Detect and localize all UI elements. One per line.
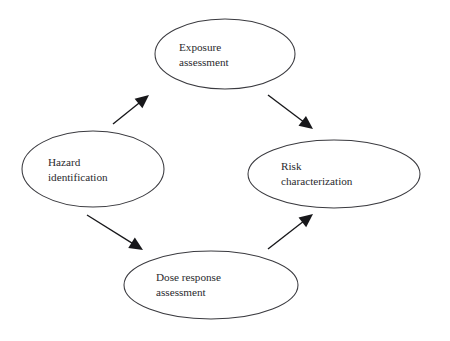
arrow-hazard-to-exposure: [113, 95, 149, 124]
arrow-exposure-to-risk-shaft: [268, 95, 304, 122]
arrow-hazard-to-exposure-shaft: [113, 102, 140, 124]
risk-characterization-node-label-line-1: Risk: [281, 159, 352, 174]
risk-assessment-diagram: ExposureassessmentHazardidentificationRi…: [0, 0, 450, 341]
arrow-dose-response-to-risk: [268, 214, 313, 249]
exposure-assessment-node-label-line-2: assessment: [179, 55, 229, 70]
arrow-dose-response-to-risk-shaft: [268, 221, 304, 249]
hazard-identification-node-label-line-1: Hazard: [48, 155, 108, 170]
arrow-exposure-to-risk: [268, 95, 313, 129]
arrow-hazard-to-dose-response-arrowhead-icon: [128, 238, 143, 250]
arrow-hazard-to-exposure-arrowhead-icon: [135, 95, 149, 108]
dose-response-assessment-node-label-line-2: assessment: [156, 285, 221, 300]
risk-characterization-node-label: Riskcharacterization: [281, 159, 352, 188]
dose-response-assessment-node-label: Dose responseassessment: [156, 270, 221, 299]
hazard-identification-node-label-line-2: identification: [48, 170, 108, 185]
risk-characterization-node-label-line-2: characterization: [281, 174, 352, 189]
exposure-assessment-node-label: Exposureassessment: [179, 40, 229, 69]
arrow-hazard-to-dose-response: [87, 215, 143, 250]
hazard-identification-node-label: Hazardidentification: [48, 155, 108, 184]
dose-response-assessment-node-label-line-1: Dose response: [156, 270, 221, 285]
exposure-assessment-node-label-line-1: Exposure: [179, 40, 229, 55]
arrow-exposure-to-risk-arrowhead-icon: [298, 116, 313, 129]
arrow-hazard-to-dose-response-shaft: [87, 215, 133, 244]
arrow-dose-response-to-risk-arrowhead-icon: [299, 214, 313, 227]
